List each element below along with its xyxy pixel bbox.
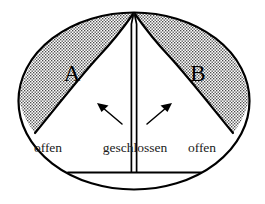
label-center-closed: geschlossen [103,140,168,155]
region-label-a: A [64,61,81,86]
label-left-open: offen [34,140,62,155]
label-right-open: offen [188,140,216,155]
diagram-canvas: A B offen geschlossen offen [0,0,265,204]
diagram-figure: A B offen geschlossen offen [0,0,265,204]
region-label-b: B [190,61,205,86]
